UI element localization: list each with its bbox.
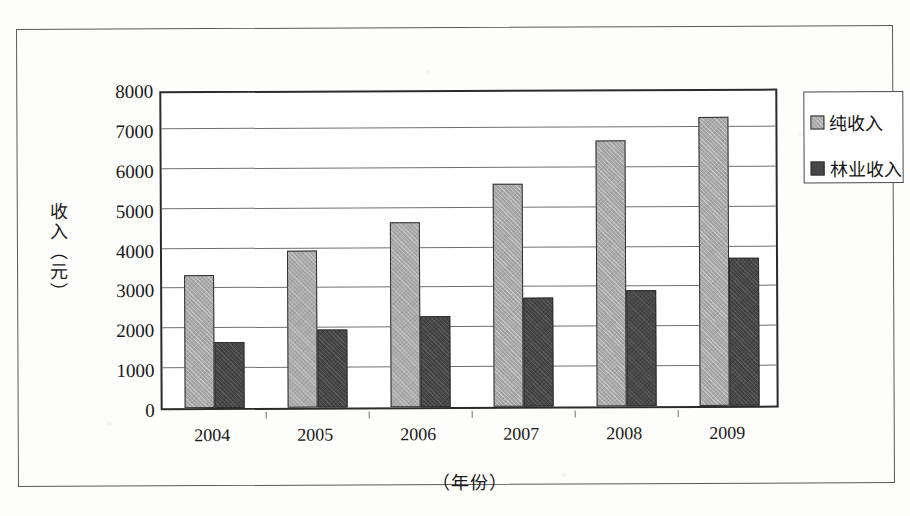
legend-swatch	[810, 115, 824, 129]
x-axis-tick-label: 2007	[503, 424, 539, 445]
y-axis-tick-label: 6000	[116, 162, 154, 181]
x-axis-tick-labels: 200420052006200720082009	[161, 423, 779, 452]
bar	[184, 275, 215, 408]
bar	[626, 290, 657, 406]
gridline	[162, 285, 776, 289]
y-axis-title: 收入（元）	[41, 92, 72, 411]
gridline	[162, 365, 776, 369]
bar	[286, 251, 317, 408]
gridline	[162, 165, 776, 169]
bar	[214, 342, 244, 408]
gridline	[162, 205, 776, 209]
gridline	[162, 325, 776, 329]
bar	[523, 298, 553, 407]
bar	[317, 330, 347, 408]
y-axis-tick-label: 5000	[116, 201, 154, 220]
x-axis-tick-label: 2004	[194, 425, 230, 446]
x-axis-tick-label: 2008	[606, 423, 642, 444]
bar	[729, 258, 760, 406]
x-axis-tick-label: 2009	[709, 423, 745, 444]
bar	[389, 222, 420, 407]
x-axis-title: （年份）	[161, 467, 779, 496]
gridline	[162, 245, 776, 249]
x-axis-tick-mark	[266, 412, 267, 419]
x-axis-tick-label: 2005	[297, 425, 333, 446]
bar	[698, 117, 729, 406]
y-axis-tick-label: 8000	[115, 82, 153, 101]
x-axis-tick-mark	[575, 410, 576, 417]
gridlines	[161, 91, 776, 409]
x-axis-tick-mark	[472, 411, 473, 418]
legend-swatch	[811, 161, 825, 175]
x-axis-tick-mark	[369, 411, 370, 418]
y-axis-tick-label: 1000	[116, 361, 154, 380]
plot-area	[159, 89, 778, 411]
scanned-page-background: 收入（元） 010002000300040005000600070008000 …	[0, 0, 910, 516]
bar	[595, 140, 626, 406]
chart-outer-frame: 收入（元） 010002000300040005000600070008000 …	[16, 25, 895, 487]
y-axis-tick-label: 2000	[116, 321, 154, 340]
legend-label: 林业收入	[830, 155, 902, 181]
x-axis-tick-mark	[678, 410, 679, 417]
y-axis-tick-label: 7000	[115, 122, 153, 141]
y-axis-tick-label: 0	[145, 401, 155, 420]
y-axis-title-label: 收入（元）	[44, 201, 70, 301]
y-axis-tick-label: 4000	[116, 241, 154, 260]
y-axis-tick-labels: 010002000300040005000600070008000	[75, 91, 154, 410]
y-axis-tick-label: 3000	[116, 281, 154, 300]
legend-entry: 纯收入	[810, 106, 902, 138]
bar	[420, 316, 450, 407]
x-axis-tick-label: 2006	[400, 424, 436, 445]
gridline	[161, 125, 775, 129]
chart-legend: 纯收入林业收入	[803, 91, 903, 183]
legend-label: 纯收入	[829, 109, 883, 135]
bar	[492, 184, 523, 407]
legend-entry: 林业收入	[811, 152, 903, 184]
